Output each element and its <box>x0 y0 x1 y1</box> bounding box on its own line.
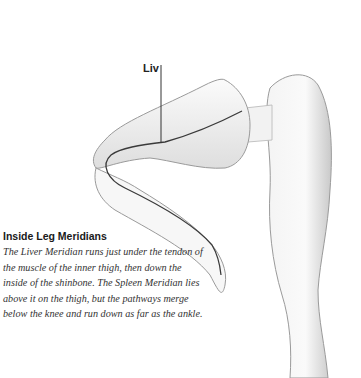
meridian-label: Liv <box>143 62 159 74</box>
standing-leg <box>267 75 332 378</box>
caption: Inside Leg Meridians The Liver Meridian … <box>3 229 203 322</box>
caption-title: Inside Leg Meridians <box>3 229 203 243</box>
bent-thigh <box>93 79 250 168</box>
caption-body: The Liver Meridian runs just under the t… <box>3 244 203 322</box>
